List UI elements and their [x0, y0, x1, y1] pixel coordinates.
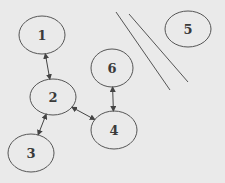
node-4-label: 4: [109, 123, 118, 138]
diagram-svg: 123456: [0, 0, 225, 183]
separator-line-1: [129, 14, 188, 82]
edge-1-2-double-arrow-icon: [45, 54, 50, 79]
edge-6-4-double-arrow-icon: [113, 87, 114, 111]
node-3-label: 3: [26, 146, 35, 161]
node-4: 4: [91, 111, 137, 149]
edge-2-3-double-arrow-icon: [38, 114, 46, 135]
node-5: 5: [165, 11, 211, 47]
node-2-label: 2: [48, 90, 57, 105]
node-6: 6: [91, 49, 133, 87]
separator-lines: [116, 12, 188, 90]
node-1: 1: [19, 16, 65, 54]
node-5-label: 5: [183, 22, 192, 37]
node-2: 2: [30, 79, 76, 115]
node-6-label: 6: [107, 61, 116, 76]
diagram-canvas: 123456: [0, 0, 225, 183]
separator-line-0: [116, 12, 170, 90]
node-3: 3: [8, 134, 54, 172]
node-1-label: 1: [37, 28, 46, 43]
edge-2-4-double-arrow-icon: [72, 107, 95, 119]
nodes: 123456: [8, 11, 211, 172]
